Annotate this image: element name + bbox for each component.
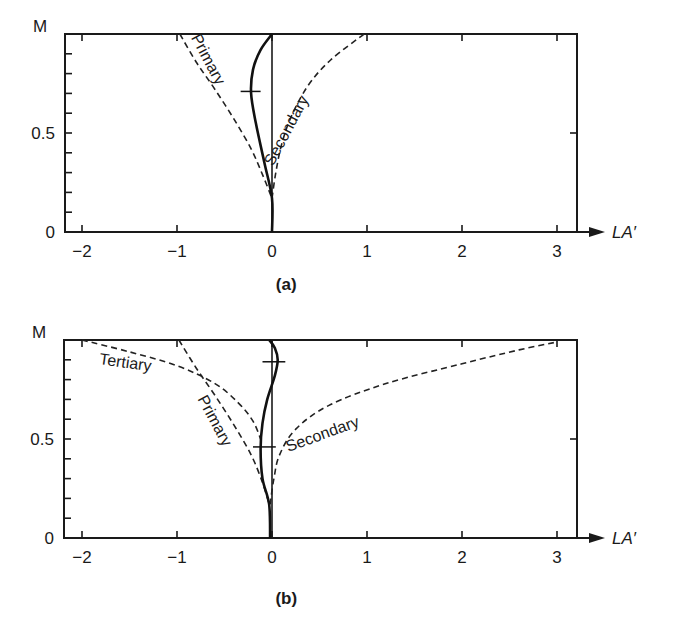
series-primary — [180, 34, 272, 198]
arrow-right-icon — [589, 227, 605, 237]
y-tick-label: 0 — [45, 529, 54, 548]
panel-label: (b) — [275, 589, 297, 608]
x-tick-label: 3 — [552, 242, 561, 261]
y-tick-label: 0.5 — [30, 430, 54, 449]
chart-figure: LA′M−2−1012300.5PrimarySecondary(a) LA′M… — [0, 0, 674, 643]
series-secondary — [270, 342, 557, 504]
panel-label: (a) — [276, 275, 297, 294]
curve-label-secondary: Secondary — [284, 413, 362, 455]
y-tick-label: 0 — [46, 223, 55, 242]
x-tick-label: −1 — [167, 548, 186, 567]
plot-frame — [65, 34, 577, 232]
x-tick-label: 0 — [267, 548, 276, 567]
curve-label-tertiary: Tertiary — [98, 350, 152, 374]
series-total — [261, 340, 278, 538]
x-tick-label: 1 — [362, 242, 371, 261]
arrow-right-icon — [589, 533, 605, 543]
x-tick-label: −2 — [72, 548, 91, 567]
x-tick-label: 1 — [362, 548, 371, 567]
x-tick-label: 2 — [457, 242, 466, 261]
panel-b: LA′M−2−1012300.5TertiaryPrimarySecondary… — [30, 323, 636, 608]
x-tick-label: 0 — [267, 242, 276, 261]
curve-label-primary: Primary — [195, 392, 236, 449]
x-tick-label: −1 — [167, 242, 186, 261]
x-tick-label: 2 — [457, 548, 466, 567]
panel-a: LA′M−2−1012300.5PrimarySecondary(a) — [31, 17, 636, 294]
x-axis-label: LA′ — [612, 223, 637, 242]
y-tick-label: 0.5 — [31, 124, 55, 143]
y-axis-label: M — [32, 323, 46, 342]
y-axis-label: M — [33, 17, 47, 36]
curve-label-secondary: Secondary — [261, 93, 312, 169]
x-tick-label: 3 — [552, 548, 561, 567]
x-axis-label: LA′ — [612, 529, 637, 548]
x-tick-label: −2 — [72, 242, 91, 261]
series-total — [251, 34, 273, 232]
